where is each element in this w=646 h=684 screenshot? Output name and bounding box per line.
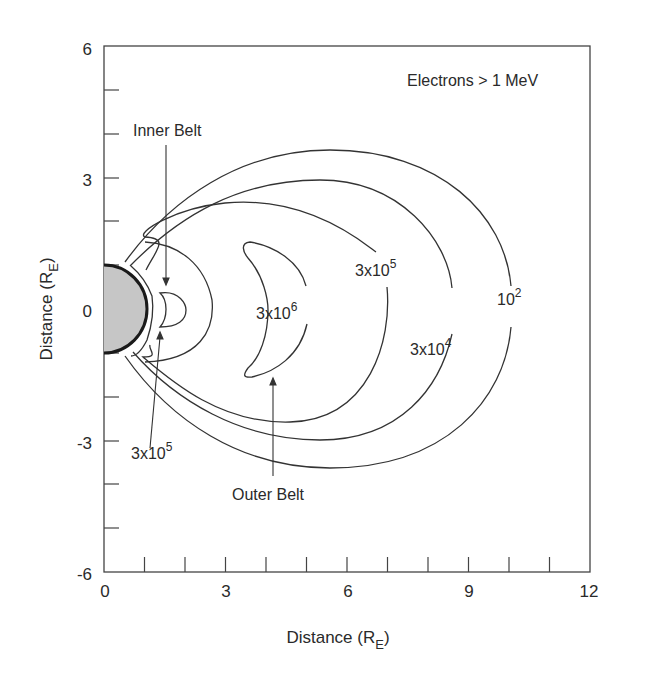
contour-labels: 3x106 3x105 3x104 102 3x105 <box>131 257 522 462</box>
radiation-belt-chart: 6 3 0 -3 -6 0 3 6 9 12 Distance (RE) Dis… <box>0 0 646 684</box>
x-tick-3: 3 <box>221 582 230 601</box>
x-tick-labels: 0 3 6 9 12 <box>100 582 598 601</box>
outer-belt-label: Outer Belt <box>232 486 305 503</box>
contour-3e5-mid <box>145 242 212 362</box>
label-inner-3e5: 3x105 <box>131 440 173 462</box>
contour-inner-belt <box>160 293 186 327</box>
label-1e2: 102 <box>497 286 522 308</box>
label-3e6: 3x106 <box>256 300 298 322</box>
y-axis-label: Distance (RE) <box>37 257 61 360</box>
contour-1e2 <box>125 150 511 468</box>
label-3e5: 3x105 <box>355 257 397 279</box>
earth-fill <box>104 265 147 353</box>
y-tick-neg3: -3 <box>77 434 92 453</box>
x-tick-9: 9 <box>464 582 473 601</box>
y-tick-labels: 6 3 0 -3 -6 <box>77 40 92 584</box>
x-tick-6: 6 <box>343 582 352 601</box>
y-tick-6: 6 <box>83 40 92 59</box>
y-tick-0: 0 <box>83 302 92 321</box>
particle-energy-label: Electrons > 1 MeV <box>407 72 539 89</box>
y-tick-neg6: -6 <box>77 565 92 584</box>
x-tick-12: 12 <box>580 582 599 601</box>
x-axis-label: Distance (RE) <box>286 628 389 652</box>
contour-lines <box>125 150 511 468</box>
inner-belt-label: Inner Belt <box>133 122 202 139</box>
x-axis-ticks <box>145 557 550 572</box>
x-tick-0: 0 <box>100 582 109 601</box>
y-tick-3: 3 <box>83 171 92 190</box>
